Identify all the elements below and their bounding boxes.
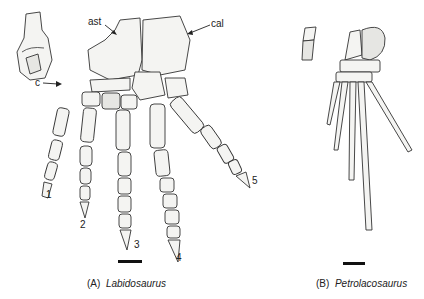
figure-canvas: ast cal c 1 2 3 4 5 (A) Labidosaurus (B)… [0,0,424,299]
panel-a-digit-3 [116,110,131,250]
label-ast: ast [88,17,101,27]
caption-b-taxon: Petrolacosaurus [335,278,407,289]
panel-a-digit-1 [42,107,70,198]
panel-a-digit-4 [150,104,180,262]
caption-b-letter: (B) [316,278,329,289]
label-cal: cal [211,19,224,29]
digit-label-3: 3 [134,240,140,250]
panel-a-scale-bar [118,260,142,263]
illustration [0,0,424,299]
panel-a-digit-2 [80,107,97,218]
panel-a-astragalus [88,18,142,80]
digit-label-1: 1 [46,190,52,200]
digit-label-4: 4 [176,253,182,263]
panel-a-calcaneum [142,16,190,75]
digit-label-5: 5 [252,176,258,186]
panel-b-tarsus [336,27,385,82]
panel-b-scale-bar [343,262,365,265]
digit-label-2: 2 [80,220,86,230]
caption-a-letter: (A) [87,278,100,289]
caption-a-taxon: Labidosaurus [106,278,166,289]
caption-a: (A) Labidosaurus [87,278,166,289]
panel-a-inset-bone [17,12,52,80]
panel-b-inset-bone [302,27,316,60]
panel-a-digit-5 [169,95,250,188]
label-c: c [35,78,40,88]
caption-b: (B) Petrolacosaurus [316,278,407,289]
panel-b-digits [327,82,412,230]
